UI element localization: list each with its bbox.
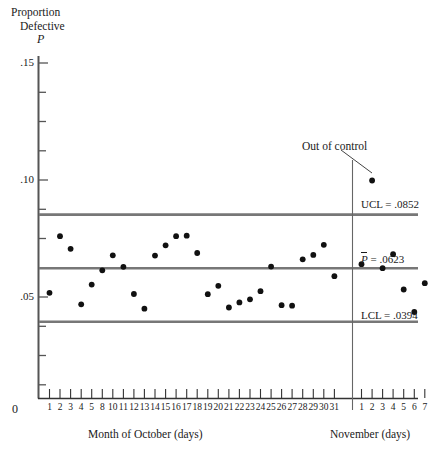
p-bar-symbol: P (361, 253, 368, 265)
lcl-label: LCL = .0394 (361, 309, 418, 321)
control-chart: Proportion Defective P .05.10.15 1234581… (0, 0, 439, 467)
data-point (47, 290, 53, 296)
chart-axes (38, 56, 418, 399)
data-point (163, 242, 169, 248)
data-point (142, 306, 148, 312)
data-point (332, 273, 338, 279)
data-point (401, 287, 407, 293)
data-point (194, 250, 200, 256)
data-point (268, 264, 274, 270)
data-point (205, 291, 211, 297)
y-tick-label: .05 (6, 290, 34, 302)
data-point (68, 246, 74, 252)
data-point (258, 288, 264, 294)
data-point (121, 264, 127, 270)
data-point (110, 252, 116, 258)
data-point (422, 280, 428, 286)
data-point (321, 242, 327, 248)
y-axis-ticks (39, 63, 48, 385)
ucl-label: UCL = .0852 (361, 198, 419, 210)
data-point (131, 291, 137, 297)
x-axis-ticks (50, 389, 425, 398)
plot-canvas (0, 0, 439, 467)
center-line-value: = .0623 (368, 253, 404, 265)
center-line-label: P = .0623 (361, 253, 404, 265)
data-point (57, 233, 63, 239)
data-point (99, 267, 105, 273)
data-point (184, 233, 190, 239)
data-point (237, 300, 243, 306)
data-point (89, 282, 95, 288)
data-point (78, 301, 84, 307)
data-point (173, 233, 179, 239)
data-point (380, 265, 386, 271)
data-point (152, 253, 158, 259)
x-tick-label-october: 31 (325, 402, 343, 412)
data-point (310, 252, 316, 258)
data-point (279, 302, 285, 308)
data-point (289, 303, 295, 309)
x-tick-label-november: 7 (416, 402, 434, 412)
x-axis-caption-november: November (days) (330, 428, 410, 442)
x-axis-caption-october: Month of October (days) (88, 428, 203, 442)
annotation-leader-line (341, 150, 372, 173)
data-point (247, 296, 253, 302)
data-point (215, 283, 221, 289)
y-tick-label: .10 (6, 173, 34, 185)
data-point (226, 305, 232, 311)
data-point (300, 256, 306, 262)
y-tick-label: .15 (6, 56, 34, 68)
out-of-control-annotation: Out of control (302, 140, 367, 152)
data-point (369, 178, 375, 184)
axis-origin-label: 0 (12, 402, 18, 417)
